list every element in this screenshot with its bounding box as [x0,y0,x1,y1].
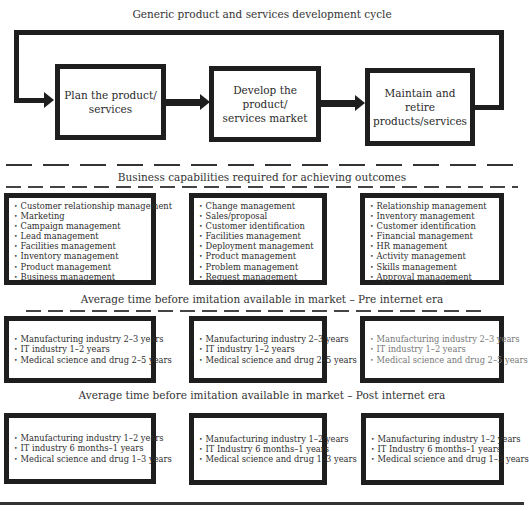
capability-item: Inventory management [14,251,146,261]
pre-internet-divider-dashed [26,310,481,312]
imitation-time-item: Medical science and drug 2–5 years [199,355,357,365]
capability-item: Deployment management [199,241,317,251]
imitation-time-item: Medical science and drug 1–3 years [199,454,357,464]
loop-entry-line [14,98,44,103]
capability-item: Sales/proposal [199,211,317,221]
stage-maintain-line2: products/services [370,114,470,128]
capabilities-title: Business capabilities required for achie… [0,171,524,183]
capability-item: Financial management [370,231,494,241]
capability-item: Facilities management [14,241,146,251]
imitation-time-item: Medical science and drug 2–5 years [14,355,172,365]
stage-maintain-line1: Maintain and retire [370,86,470,114]
capability-item: Change management [199,201,317,211]
cycle-title: Generic product and services development… [0,8,524,20]
arrow-into-plan-icon [44,92,54,108]
imitation-time-item: Manufacturing industry 1–2 years [199,434,357,444]
pre-internet-box-develop: Manufacturing industry 2–3 years IT indu… [189,316,327,383]
stage-develop: Develop the product/ services market [209,66,321,142]
capabilities-divider-dashed [6,186,518,188]
capability-item: Activity management [370,251,494,261]
imitation-time-item: Medical science and drug 1–3 years [371,454,529,464]
imitation-time-item: Manufacturing industry 2–3 years [370,334,528,344]
capability-item: Lead management [14,231,146,241]
capability-item: Customer identification [199,221,317,231]
post-internet-box-develop: Manufacturing industry 1–2 years IT Indu… [189,413,327,485]
arrow-plan-develop-shaft [166,99,202,106]
capability-item: Skills management [370,262,494,272]
loop-top-line [14,30,504,35]
pre-internet-box-plan: Manufacturing industry 2–3 years IT indu… [4,316,156,383]
imitation-time-item: Manufacturing industry 2–3 years [14,334,172,344]
stage-maintain: Maintain and retire products/services [365,68,475,146]
capability-item: Problem management [199,262,317,272]
capability-item: Product management [14,262,146,272]
post-internet-title: Average time before imitation available … [0,389,524,401]
imitation-time-item: IT industry 1–2 years [370,344,528,354]
capabilities-box-maintain: Relationship management Inventory manage… [360,193,504,285]
stage-plan-line1: Plan the product/ [64,88,157,102]
capabilities-box-plan: Customer relationship management Marketi… [4,193,156,285]
capability-item: Approval management [370,272,494,282]
capability-item: Business management [14,272,146,282]
pre-internet-title: Average time before imitation available … [0,293,524,305]
stage-develop-line2: services market [214,111,316,125]
capability-item: Facilities management [199,231,317,241]
post-internet-box-plan: Manufacturing industry 1–2 years IT indu… [4,413,156,484]
bottom-rule [0,502,524,505]
stage-plan: Plan the product/ services [55,64,166,140]
imitation-time-item: Medical science and drug 2–5 years [370,355,528,365]
capability-item: Product management [199,251,317,261]
imitation-time-item: IT industry 1–2 years [14,344,172,354]
imitation-time-item: Medical science and drug 1–3 years [14,454,172,464]
imitation-time-item: IT Industry 6 months–1 years [371,444,529,454]
loop-right-connector [474,105,504,110]
loop-left-line [14,30,19,103]
capabilities-box-develop: Change management Sales/proposal Custome… [189,193,327,285]
imitation-time-item: IT Industry 6 months–1 years [199,444,357,454]
capability-item: Marketing [14,211,146,221]
capability-item: Request management [199,272,317,282]
stage-plan-line2: services [64,102,157,116]
imitation-time-item: Manufacturing industry 1–2 years [371,434,529,444]
capability-item: Relationship management [370,201,494,211]
post-internet-box-maintain: Manufacturing industry 1–2 years IT Indu… [361,413,504,485]
capability-item: Campaign management [14,221,146,231]
imitation-time-item: IT industry 6 months–1 years [14,443,172,453]
pre-internet-box-maintain: Manufacturing industry 2–3 years IT indu… [360,316,504,383]
imitation-time-item: Manufacturing industry 2–3 years [199,334,357,344]
stage-develop-line1: Develop the product/ [214,83,316,111]
section-divider-dashed [6,164,524,166]
imitation-time-item: Manufacturing industry 1–2 years [14,433,172,443]
capability-item: HR management [370,241,494,251]
imitation-time-item: IT industry 1–2 years [199,344,357,354]
loop-right-line [499,30,504,110]
arrow-develop-maintain-shaft [321,100,357,107]
capability-item: Customer relationship management [14,201,146,211]
capability-item: Customer identification [370,221,494,231]
arrow-develop-maintain-icon [355,95,365,111]
capability-item: Inventory management [370,211,494,221]
